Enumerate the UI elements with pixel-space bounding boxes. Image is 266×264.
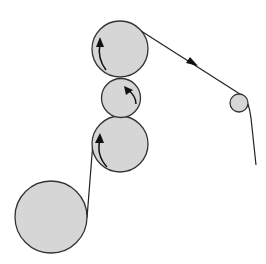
web-direction-arrow-icon — [186, 57, 198, 66]
lower-roller — [92, 116, 148, 172]
web-idler-down — [248, 104, 256, 165]
supply-roller — [15, 181, 87, 253]
top-roller — [92, 21, 148, 77]
idler-roller — [230, 94, 248, 112]
roller-diagram — [0, 0, 266, 264]
web-supply-to-lower-roller — [87, 142, 93, 218]
